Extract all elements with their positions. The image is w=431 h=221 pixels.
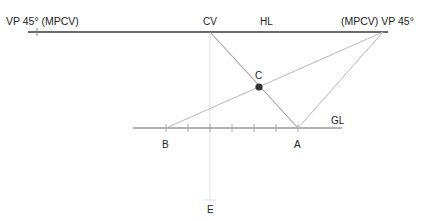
- vp-right-label: (MPCV) VP 45°: [341, 16, 414, 27]
- line-b-to-vp-right: [166, 32, 383, 128]
- perspective-diagram: [0, 0, 431, 221]
- a-label: A: [294, 140, 301, 150]
- e-label: E: [207, 205, 214, 215]
- line-a-to-vp-right: [298, 32, 383, 128]
- vp-left-label: VP 45° (MPCV): [6, 16, 79, 27]
- b-label: B: [162, 140, 169, 150]
- cv-label: CV: [203, 17, 217, 27]
- c-label: C: [255, 71, 262, 81]
- line-cv-to-a: [210, 32, 298, 128]
- gl-label: GL: [331, 116, 344, 126]
- point-c: [255, 83, 262, 90]
- hl-label: HL: [260, 17, 273, 27]
